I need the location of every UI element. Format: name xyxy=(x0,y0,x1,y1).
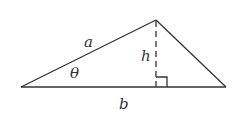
label-theta: θ xyxy=(70,64,79,82)
side-a xyxy=(21,20,156,87)
right-angle-marker xyxy=(156,77,167,87)
triangle-diagram: a θ h b xyxy=(0,0,242,128)
label-a: a xyxy=(84,33,93,51)
label-b: b xyxy=(119,95,129,113)
triangle xyxy=(21,20,226,87)
label-h: h xyxy=(141,47,151,65)
